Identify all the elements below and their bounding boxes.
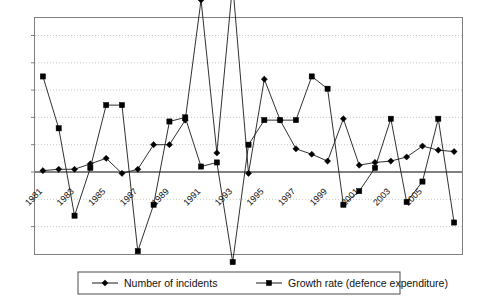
square-marker xyxy=(183,115,188,120)
square-marker xyxy=(341,202,346,207)
square-marker xyxy=(372,165,377,170)
square-marker xyxy=(357,189,362,194)
square-marker xyxy=(278,118,283,123)
square-marker xyxy=(119,103,124,108)
square-marker xyxy=(309,74,314,79)
square-marker xyxy=(198,164,203,169)
legend-label: Growth rate (defence expenditure) xyxy=(288,277,448,289)
square-marker xyxy=(266,280,271,285)
square-marker xyxy=(214,160,219,165)
square-marker xyxy=(262,118,267,123)
square-marker xyxy=(104,103,109,108)
square-marker xyxy=(230,259,235,264)
square-marker xyxy=(246,142,251,147)
square-marker xyxy=(88,165,93,170)
square-marker xyxy=(56,126,61,131)
legend-label: Number of incidents xyxy=(124,277,217,289)
square-marker xyxy=(420,179,425,184)
square-marker xyxy=(40,74,45,79)
square-marker xyxy=(388,116,393,121)
diamond-marker xyxy=(198,0,204,3)
square-marker xyxy=(167,119,172,124)
square-marker xyxy=(451,220,456,225)
square-marker xyxy=(72,213,77,218)
square-marker xyxy=(436,116,441,121)
square-marker xyxy=(404,199,409,204)
square-marker xyxy=(325,86,330,91)
square-marker xyxy=(151,202,156,207)
square-marker xyxy=(135,249,140,254)
chart-canvas: 1981198319851987198919911993199519971999… xyxy=(0,0,477,308)
square-marker xyxy=(293,118,298,123)
line-chart: 1981198319851987198919911993199519971999… xyxy=(0,0,477,308)
chart-legend: Number of incidentsGrowth rate (defence … xyxy=(78,272,448,294)
